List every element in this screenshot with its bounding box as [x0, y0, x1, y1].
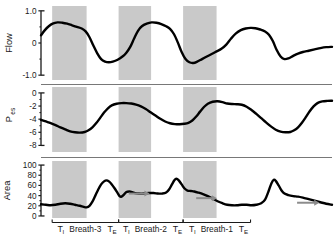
inspiration-band-1-flow [52, 6, 86, 80]
y-tick-label-area-5: 0 [32, 212, 37, 221]
breath-axis-2: Breath-2TITE [119, 220, 184, 236]
breath-label-ti-sub-3: I [194, 228, 196, 235]
inspiration-band-3-flow [183, 6, 216, 80]
y-axis-title-flow: Flow [4, 33, 14, 53]
y-tick-label-pes-0: 0 [32, 89, 37, 98]
breath-label-ti-sub-1: I [63, 228, 65, 235]
y-tick-label-area-1: 80 [27, 171, 37, 180]
breath-axis-3: Breath-1TITE [183, 220, 250, 236]
inspiration-band-1-pes [52, 87, 86, 152]
panel-area: 100806040200 [23, 161, 45, 221]
y-axis-title-text-flow: Flow [4, 33, 14, 53]
breath-label-te-sub-2: E [178, 228, 182, 235]
inspiration-band-2-pes [119, 87, 152, 152]
inspiration-band-2-area [119, 161, 152, 218]
y-tick-label-flow-0: 1.0 [25, 7, 37, 16]
y-tick-label-pes-3: -6 [29, 128, 37, 137]
y-tick-label-flow-2: -1.0 [22, 71, 37, 80]
y-tick-label-pes-4: -8 [29, 141, 37, 150]
breath-label-te-sub-3: E [244, 228, 248, 235]
y-tick-label-pes-2: -4 [29, 115, 37, 124]
y-tick-label-pes-1: -2 [29, 102, 37, 111]
breath-label-name-1: Breath-3 [69, 224, 101, 234]
inspiration-band-3-pes [183, 87, 216, 152]
breath-label-name-2: Breath-2 [135, 224, 167, 234]
breath-label-te-sub-1: E [113, 228, 117, 235]
y-tick-label-flow-1: 0 [32, 39, 37, 48]
y-axis-title-area: Area [2, 180, 12, 200]
breath-axis-1: Breath-3TITE [52, 220, 118, 236]
y-tick-label-area-4: 20 [27, 202, 37, 211]
respiratory-waveform-chart: 1.00-1.0Flow0-2-4-6-8Pes100806040200Area… [0, 0, 335, 247]
y-tick-label-area-2: 60 [27, 181, 37, 190]
panel-flow: 1.00-1.0 [22, 7, 44, 80]
inspiration-band-2-flow [119, 6, 152, 80]
y-tick-label-area-3: 40 [27, 192, 37, 201]
y-axis-title-pes: Pes [4, 107, 16, 122]
figure-container: 1.00-1.0Flow0-2-4-6-8Pes100806040200Area… [0, 0, 335, 247]
breath-label-name-3: Breath-1 [201, 224, 233, 234]
y-axis-title-sub-pes: es [9, 107, 16, 115]
y-axis-title-text-area: Area [2, 180, 12, 200]
breath-label-ti-sub-2: I [128, 228, 130, 235]
y-axis-title-text-pes: P [4, 116, 14, 122]
inspiration-band-1-area [52, 161, 86, 218]
y-tick-label-area-0: 100 [23, 161, 37, 170]
